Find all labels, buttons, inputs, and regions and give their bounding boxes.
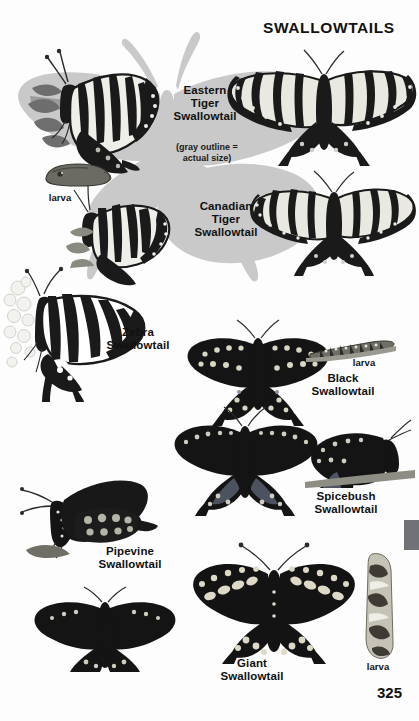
species-name-line: Swallowtail	[196, 670, 308, 683]
larva-label-giant: larva	[356, 662, 400, 673]
species-name-line: Swallowtail	[296, 385, 390, 398]
page-title: SWALLOWTAILS	[263, 19, 395, 37]
species-label-zebra: Zebra Swallowtail	[90, 326, 186, 352]
note-line-2: actual size)	[155, 153, 259, 164]
species-name-line: Spicebush	[294, 490, 398, 503]
species-label-giant: Giant Swallowtail	[196, 657, 308, 683]
species-label-eastern-tiger: Eastern Tiger Swallowtail	[157, 84, 253, 123]
edge-tab-marker	[404, 520, 419, 550]
species-name-line: Black	[296, 372, 390, 385]
species-name-line: Pipevine	[76, 545, 184, 558]
note-line-1: (gray outline =	[155, 142, 259, 153]
species-name-line: Eastern	[157, 84, 253, 97]
species-name-line: Swallowtail	[176, 226, 276, 239]
species-name-line: Zebra	[90, 326, 186, 339]
species-name-line: Canadian	[176, 200, 276, 213]
species-label-canadian-tiger: Canadian Tiger Swallowtail	[176, 200, 276, 239]
species-name-line: Swallowtail	[157, 110, 253, 123]
species-name-line: Tiger	[176, 213, 276, 226]
specimen-black-larva	[306, 328, 396, 362]
species-label-spicebush: Spicebush Swallowtail	[294, 490, 398, 516]
specimen-spicebush-side	[305, 408, 415, 488]
species-label-black: Black Swallowtail	[296, 372, 390, 398]
specimen-canadian-tiger-perched	[62, 178, 182, 268]
species-label-pipevine: Pipevine Swallowtail	[76, 545, 184, 571]
species-name-line: Tiger	[157, 97, 253, 110]
page-number: 325	[377, 684, 402, 701]
species-name-line: Swallowtail	[76, 558, 184, 571]
specimen-pipevine-swallowtail	[18, 462, 158, 558]
specimen-pipevine-spread	[30, 586, 180, 672]
species-name-line: Swallowtail	[294, 503, 398, 516]
field-guide-page: SWALLOWTAILS	[0, 0, 419, 721]
specimen-eastern-tiger-perched	[22, 38, 172, 173]
species-name-line: Giant	[196, 657, 308, 670]
species-name-line: Swallowtail	[90, 339, 186, 352]
actual-size-note: (gray outline = actual size)	[155, 142, 259, 165]
larva-label-black: larva	[342, 358, 386, 369]
specimen-giant-larva	[360, 552, 400, 662]
specimen-giant-swallowtail	[192, 540, 357, 664]
